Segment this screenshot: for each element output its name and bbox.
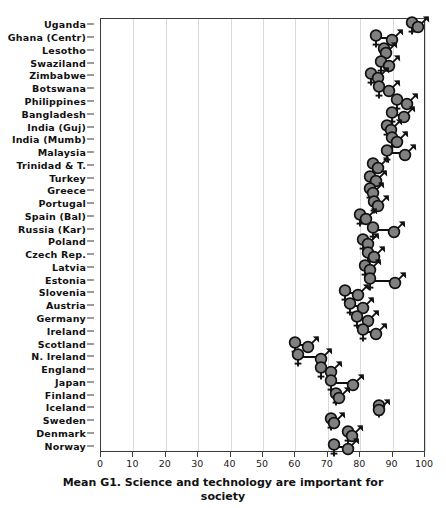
y-axis-label-denmark: Denmark bbox=[36, 427, 86, 438]
y-axis-label-greece: Greece bbox=[47, 185, 86, 196]
y-tick bbox=[87, 407, 94, 408]
y-tick bbox=[87, 266, 94, 267]
y-tick bbox=[87, 126, 94, 127]
y-axis-label-czech-rep: Czech Rep. bbox=[25, 249, 86, 260]
gridline-20 bbox=[166, 19, 167, 451]
x-tick-50 bbox=[262, 452, 263, 457]
y-axis-label-ghana-centr: Ghana (Centr) bbox=[8, 32, 86, 43]
y-axis-label-iceland: Iceland bbox=[46, 402, 86, 413]
x-tick-0 bbox=[100, 452, 101, 457]
y-tick bbox=[87, 164, 94, 165]
male-marker bbox=[330, 385, 352, 407]
y-axis-label-england: England bbox=[41, 364, 86, 375]
y-tick bbox=[87, 317, 94, 318]
y-tick bbox=[87, 445, 94, 446]
x-tick-label: 90 bbox=[386, 458, 398, 469]
y-axis-label-ireland: Ireland bbox=[47, 325, 86, 336]
x-tick-10 bbox=[132, 452, 133, 457]
y-tick bbox=[87, 254, 94, 255]
y-axis-label-portugal: Portugal bbox=[38, 198, 86, 209]
y-tick bbox=[87, 343, 94, 344]
x-tick-30 bbox=[197, 452, 198, 457]
male-marker bbox=[370, 397, 392, 419]
y-axis-label-sweden: Sweden bbox=[43, 415, 86, 426]
y-tick bbox=[87, 330, 94, 331]
y-tick bbox=[87, 203, 94, 204]
y-tick bbox=[87, 49, 94, 50]
y-axis-label-india-mumb: India (Mumb) bbox=[12, 134, 86, 145]
y-axis-label-russia-kar: Russia (Kar) bbox=[18, 223, 86, 234]
y-tick bbox=[87, 177, 94, 178]
y-tick bbox=[87, 100, 94, 101]
x-tick-40 bbox=[230, 452, 231, 457]
male-marker bbox=[386, 270, 408, 292]
x-tick-90 bbox=[392, 452, 393, 457]
y-tick bbox=[87, 241, 94, 242]
x-tick-100 bbox=[424, 452, 425, 457]
x-tick-label: 0 bbox=[97, 458, 103, 469]
y-axis-label-japan: Japan bbox=[55, 376, 86, 387]
y-axis-label-swaziland: Swaziland bbox=[30, 57, 86, 68]
x-axis-ticks: 0102030405060708090100 bbox=[100, 452, 426, 478]
y-axis-label-lesotho: Lesotho bbox=[42, 44, 86, 55]
y-tick bbox=[87, 113, 94, 114]
male-marker bbox=[396, 142, 418, 164]
y-axis-label-india-guj: India (Guj) bbox=[27, 121, 86, 132]
male-marker bbox=[385, 219, 407, 241]
y-axis-label-germany: Germany bbox=[36, 312, 86, 323]
x-tick-label: 80 bbox=[353, 458, 365, 469]
x-tick-20 bbox=[165, 452, 166, 457]
gridline-50 bbox=[263, 19, 264, 451]
y-axis-label-uganda: Uganda bbox=[44, 19, 86, 30]
y-tick bbox=[87, 369, 94, 370]
female-marker bbox=[289, 346, 311, 368]
x-tick-label: 60 bbox=[288, 458, 300, 469]
y-axis-label-spain-bal: Spain (Bal) bbox=[25, 210, 86, 221]
x-tick-label: 40 bbox=[224, 458, 236, 469]
y-tick bbox=[87, 394, 94, 395]
y-tick bbox=[87, 24, 94, 25]
y-tick bbox=[87, 432, 94, 433]
y-tick bbox=[87, 356, 94, 357]
y-axis-label-scotland: Scotland bbox=[38, 338, 86, 349]
y-tick bbox=[87, 292, 94, 293]
x-tick-label: 70 bbox=[321, 458, 333, 469]
y-axis-label-finland: Finland bbox=[45, 389, 86, 400]
chart-root: UgandaGhana (Centr)LesothoSwazilandZimba… bbox=[0, 0, 446, 508]
y-tick bbox=[87, 228, 94, 229]
y-tick bbox=[87, 37, 94, 38]
y-tick bbox=[87, 420, 94, 421]
y-axis-label-turkey: Turkey bbox=[49, 172, 86, 183]
y-axis-label-zimbabwe: Zimbabwe bbox=[29, 70, 86, 81]
y-tick bbox=[87, 190, 94, 191]
y-axis-label-bangladesh: Bangladesh bbox=[21, 108, 86, 119]
plot-area bbox=[100, 18, 425, 452]
x-tick-70 bbox=[327, 452, 328, 457]
gridline-30 bbox=[198, 19, 199, 451]
x-axis-title: Mean G1. Science and technology are impo… bbox=[40, 476, 406, 504]
y-axis-label-slovenia: Slovenia bbox=[39, 287, 86, 298]
x-tick-label: 50 bbox=[256, 458, 268, 469]
x-tick-label: 20 bbox=[159, 458, 171, 469]
y-tick bbox=[87, 62, 94, 63]
y-axis-label-philippines: Philippines bbox=[25, 95, 86, 106]
y-tick bbox=[87, 139, 94, 140]
gridline-60 bbox=[295, 19, 296, 451]
gridline-10 bbox=[133, 19, 134, 451]
male-marker bbox=[367, 321, 389, 343]
y-axis-label-poland: Poland bbox=[48, 236, 86, 247]
x-tick-label: 10 bbox=[126, 458, 138, 469]
y-axis-label-estonia: Estonia bbox=[45, 274, 86, 285]
x-tick-label: 30 bbox=[191, 458, 203, 469]
y-axis-label-norway: Norway bbox=[45, 440, 86, 451]
x-tick-label: 100 bbox=[415, 458, 433, 469]
x-tick-60 bbox=[294, 452, 295, 457]
y-axis-label-trinidad-t: Trinidad & T. bbox=[16, 159, 86, 170]
y-tick bbox=[87, 305, 94, 306]
y-tick bbox=[87, 88, 94, 89]
y-tick bbox=[87, 215, 94, 216]
gridline-40 bbox=[231, 19, 232, 451]
y-axis-label-latvia: Latvia bbox=[52, 261, 86, 272]
y-axis-label-austria: Austria bbox=[46, 300, 86, 311]
y-axis-label-botswana: Botswana bbox=[32, 83, 86, 94]
